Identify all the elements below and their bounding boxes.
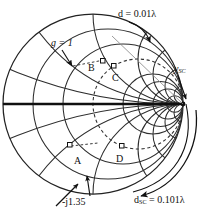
smith-grid [0, 0, 207, 220]
point-label-A: A [74, 156, 81, 166]
b-arc-pos-0p2 [0, 0, 207, 104]
ysc-label-sub: SC [178, 67, 185, 74]
dsc-label-tail: = 0.101λ [147, 194, 185, 205]
point-marker-D [120, 144, 125, 149]
point-marker-B [101, 59, 106, 64]
smith-chart-canvas [0, 0, 207, 220]
b-arc-pos-2 [138, 14, 207, 104]
d-length-label: d = 0.01λ [118, 9, 156, 19]
callout-leaders [56, 22, 196, 206]
dsc-length-label: dSC = 0.101λ [134, 195, 185, 205]
point-label-D: D [116, 154, 123, 164]
connector-A-to-D [71, 143, 98, 146]
smith-chart-figure: d = 0.01λ g = 1 ySC dSC = 0.101λ -j1.35 … [0, 0, 207, 220]
point-label-C: C [112, 73, 119, 83]
point-marker-A [68, 143, 73, 148]
reactance-label-leader [87, 176, 90, 196]
grid-lines [0, 0, 207, 220]
point-label-B: B [88, 63, 95, 73]
dsc-label-sub: SC [139, 198, 147, 205]
reactance-value-label: -j1.35 [62, 197, 86, 207]
point-marker-C [112, 64, 117, 69]
ysc-label: ySC [174, 64, 186, 74]
g-equals-1-label: g = 1 [51, 38, 73, 48]
